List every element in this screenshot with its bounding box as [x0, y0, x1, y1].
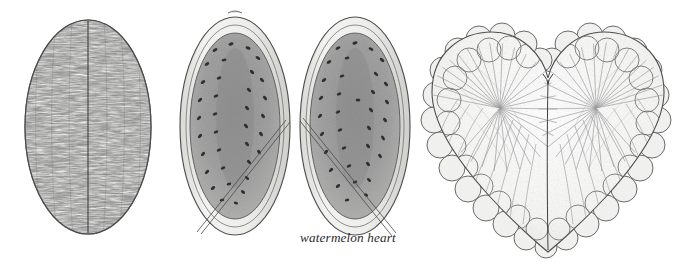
illustration-plate: [0, 0, 688, 265]
plate-caption: watermelon heart: [293, 231, 403, 244]
figure-melon-half-right: [300, 17, 410, 236]
figure-whole-melon: [24, 20, 152, 235]
half-right-flesh-core: [336, 48, 374, 188]
